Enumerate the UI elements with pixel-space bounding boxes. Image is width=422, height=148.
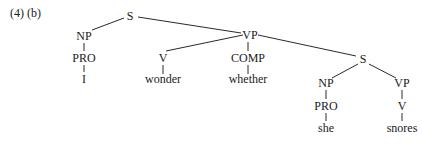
edge-S1-VP1 — [138, 17, 241, 33]
node-s-root: S — [127, 10, 134, 22]
edge-VP1-V1 — [166, 35, 243, 51]
edge-VP1-S2 — [258, 35, 356, 56]
node-s-embedded: S — [360, 53, 367, 65]
node-v-main: V — [159, 52, 168, 64]
node-pro-subject: PRO — [72, 52, 95, 64]
leaf-i: I — [82, 73, 86, 85]
node-comp: COMP — [231, 52, 265, 64]
leaf-wonder: wonder — [145, 73, 181, 85]
leaf-snores: snores — [387, 122, 418, 134]
leaf-whether: whether — [229, 73, 268, 85]
edge-S2-VP2 — [369, 64, 396, 78]
node-np-subject: NP — [76, 30, 91, 42]
edge-S1-NP1 — [92, 18, 124, 30]
node-np-embedded: NP — [318, 77, 333, 89]
node-vp-embedded: VP — [394, 77, 409, 89]
leaf-she: she — [318, 122, 334, 134]
tree-edges — [0, 0, 422, 148]
node-v-embedded: V — [398, 100, 407, 112]
node-vp-main: VP — [242, 29, 257, 41]
node-pro-embedded: PRO — [314, 100, 337, 112]
edge-S2-NP2 — [332, 64, 358, 78]
